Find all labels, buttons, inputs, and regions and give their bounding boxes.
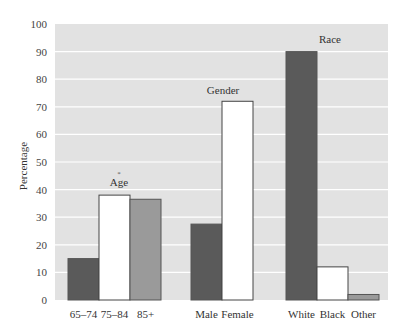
category-label: Female xyxy=(221,308,253,320)
bar-white xyxy=(286,52,317,300)
y-tick-label: 70 xyxy=(36,101,48,113)
bar-chart: 0102030405060708090100 Percentage 65–747… xyxy=(0,0,401,333)
category-label: 75–84 xyxy=(101,308,129,320)
category-label: 85+ xyxy=(137,308,154,320)
bar-85- xyxy=(130,199,161,300)
category-label: Male xyxy=(195,308,218,320)
bar-black xyxy=(317,267,348,300)
group-label-race: Race xyxy=(319,33,341,45)
y-tick-label: 80 xyxy=(36,73,48,85)
y-tick-label: 30 xyxy=(36,211,48,223)
bar-65-74 xyxy=(68,259,99,300)
bar-other xyxy=(348,294,379,300)
bar-75-84 xyxy=(99,195,130,300)
category-label: Black xyxy=(320,308,346,320)
y-tick-label: 10 xyxy=(36,266,48,278)
y-tick-label: 20 xyxy=(36,239,48,251)
category-label: Other xyxy=(351,308,376,320)
y-tick-label: 0 xyxy=(42,294,48,306)
bar-male xyxy=(191,224,222,300)
bar-female xyxy=(222,101,253,300)
y-tick-label: 60 xyxy=(36,128,48,140)
y-tick-label: 40 xyxy=(36,184,48,196)
category-label: White xyxy=(288,308,315,320)
x-axis-category-labels: 65–7475–8485+MaleFemaleWhiteBlackOther xyxy=(70,308,377,320)
y-tick-label: 50 xyxy=(36,156,48,168)
group-label-gender: Gender xyxy=(207,84,240,96)
y-tick-label: 90 xyxy=(36,46,48,58)
annotation-asterisk: * xyxy=(117,170,121,178)
y-axis-label: Percentage xyxy=(17,142,29,190)
y-axis-ticks: 0102030405060708090100 xyxy=(31,18,48,306)
y-tick-label: 100 xyxy=(31,18,48,30)
category-label: 65–74 xyxy=(70,308,98,320)
